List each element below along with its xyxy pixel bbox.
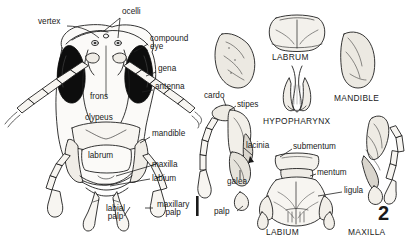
label-antenna: antenna [155, 83, 185, 92]
label-palp: palp [214, 208, 229, 217]
part-title-labrum: LABRUM [272, 53, 309, 62]
part-title-maxilla: MAXILLA [348, 228, 385, 237]
label-stipes: stipes [237, 101, 258, 110]
label-compound-eye: compound eye [150, 35, 188, 51]
label-mentum: mentum [317, 169, 347, 178]
label-labium: labium [152, 175, 176, 184]
label-gena: gena [158, 65, 176, 74]
label-frons: frons [90, 93, 108, 102]
label-labial-palp-line2: palp [108, 212, 123, 221]
part-title-labium: LABIUM [266, 228, 299, 237]
label-maxillary-palp: maxillary palp [157, 201, 189, 217]
label-submentum: submentum [293, 143, 336, 152]
label-ocelli: ocelli [122, 8, 141, 17]
figure-number: 2 [378, 203, 389, 224]
part-title-hypopharynx: HYPOPHARYNX [263, 117, 330, 126]
label-maxilla: maxilla [152, 161, 177, 170]
label-clypeus: clypeus [85, 114, 113, 123]
label-labrum: labrum [88, 152, 113, 161]
label-vertex: vertex [38, 18, 60, 27]
label-galea: galea [227, 178, 247, 187]
label-maxillary-palp-line2: palp [165, 208, 180, 217]
figure-container: vertex ocelli compound eye gena antenna … [0, 0, 406, 247]
scale-bar [196, 196, 199, 216]
label-ligula: ligula [344, 187, 363, 196]
label-mandible: mandible [152, 130, 185, 139]
label-cardo: cardo [204, 92, 224, 101]
label-lacinia: lacinia [246, 142, 269, 151]
part-title-mandible: MANDIBLE [334, 94, 379, 103]
illustration-artwork [0, 0, 406, 247]
label-labial-palp: labial palp [106, 205, 125, 221]
label-compound-eye-line2: eye [150, 42, 163, 51]
